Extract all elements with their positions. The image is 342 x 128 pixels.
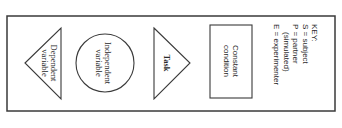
diagram-canvas: Dependent variable Independent variable … [0,0,342,128]
dependent-variable-shape: Dependent variable [25,28,61,99]
key-line-subject: S = subject [301,24,310,65]
key-line-partner: P = partner [291,24,300,64]
independent-variable-shape: Independent variable [76,34,134,92]
constant-condition-shape: Constant condition [210,25,252,98]
task-shape: Task [154,28,190,99]
constant-label-line2: condition [222,45,231,77]
constant-label-line1: Constant [231,45,240,78]
key-title: KEY: [310,24,319,42]
task-label: Task [162,54,172,71]
dependent-label-line2: variable [40,49,50,77]
key-line-experimenter: E = experimenter [272,24,281,85]
key-legend: KEY: S = subject P = partner (simulated)… [272,24,319,85]
key-line-simulated: (simulated) [282,32,291,72]
independent-label-line2: variable [94,49,104,77]
